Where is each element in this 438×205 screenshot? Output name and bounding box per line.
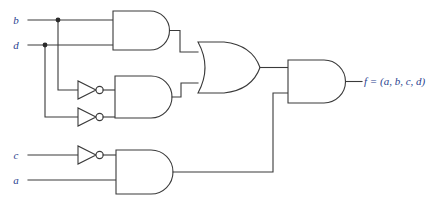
- input-label-d: d: [13, 39, 19, 51]
- output-label-f: f = (a, b, c, d): [364, 75, 426, 88]
- logic-circuit-diagram: b d c a f = (a, b, c, d): [0, 0, 438, 205]
- input-label-a: a: [13, 174, 19, 186]
- label-layer: b d c a f = (a, b, c, d): [0, 0, 438, 205]
- input-label-c: c: [14, 149, 19, 161]
- input-label-b: b: [13, 14, 19, 26]
